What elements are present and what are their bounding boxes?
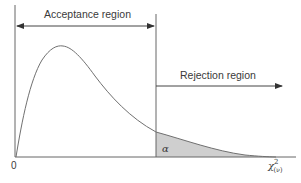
- rejection-tail-shading: [156, 132, 276, 157]
- alpha-label: α: [162, 144, 169, 154]
- acceptance-region-label: Acceptance region: [44, 9, 131, 20]
- chi-subscript: (ν): [274, 166, 283, 174]
- chi-superscript: 2: [274, 158, 278, 166]
- chi-square-density-curve: [16, 46, 276, 157]
- x-axis-label: χ2(ν): [268, 160, 288, 174]
- chi-square-diagram: [0, 0, 301, 183]
- rejection-region-label: Rejection region: [180, 70, 256, 81]
- origin-label: 0: [11, 161, 17, 171]
